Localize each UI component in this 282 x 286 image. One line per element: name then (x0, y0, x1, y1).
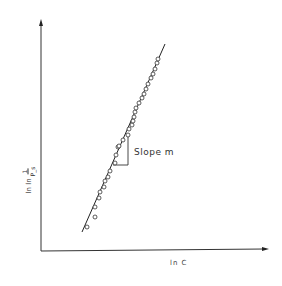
data-point (131, 119, 135, 123)
slope-annotation: Slope m (134, 147, 174, 157)
data-point (142, 92, 146, 96)
y-axis-label-denominator: P_s (29, 167, 36, 177)
y-axis-label-numerator: 1 (21, 169, 29, 175)
data-point (117, 144, 121, 148)
y-axis-label-fraction: 1 P_s (21, 167, 36, 177)
weibull-plot (0, 0, 282, 286)
data-point (127, 127, 131, 131)
data-point (97, 196, 101, 200)
data-point (85, 225, 89, 229)
data-point (98, 190, 102, 194)
data-point (132, 115, 136, 119)
data-point (106, 175, 110, 179)
data-point (114, 153, 118, 157)
data-point (93, 205, 97, 209)
x-axis (41, 249, 264, 251)
y-axis-label: ln ln 1 P_s (8, 150, 48, 210)
x-axis-arrow-icon (262, 247, 269, 251)
data-point (113, 161, 117, 165)
data-point (140, 96, 144, 100)
data-point (149, 76, 153, 80)
data-points (85, 57, 160, 229)
data-point (155, 61, 159, 65)
y-axis-label-prefix: ln ln (24, 178, 32, 193)
data-point (133, 110, 137, 114)
data-point (121, 138, 125, 142)
data-point (137, 101, 141, 105)
data-point (144, 87, 148, 91)
data-point (102, 185, 106, 189)
data-point (156, 57, 160, 61)
data-point (130, 123, 134, 127)
data-point (134, 106, 138, 110)
x-axis-label: ln C (170, 259, 188, 267)
data-point (151, 72, 155, 76)
data-point (108, 169, 112, 173)
data-point (93, 215, 97, 219)
y-axis-arrow-icon (39, 19, 43, 26)
data-point (146, 82, 150, 86)
data-point (126, 133, 130, 137)
data-point (103, 179, 107, 183)
data-point (153, 67, 157, 71)
